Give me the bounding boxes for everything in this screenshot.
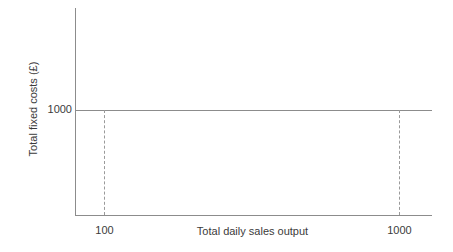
total-fixed-costs-line [75, 110, 432, 111]
y-axis-line [75, 8, 76, 216]
x-axis-tick-label-100: 100 [90, 224, 119, 237]
y-axis-title: Total fixed costs (£) [27, 49, 39, 169]
x-axis-line [75, 215, 432, 216]
fixed-costs-chart: 1000 100 1000 Total daily sales output T… [0, 0, 453, 252]
x-axis-title: Total daily sales output [180, 225, 325, 237]
y-axis-tick-label-1000: 1000 [47, 103, 72, 116]
x-axis-tick-label-1000: 1000 [382, 224, 417, 237]
dropline-at-100 [104, 110, 105, 215]
dropline-at-1000 [399, 110, 400, 215]
